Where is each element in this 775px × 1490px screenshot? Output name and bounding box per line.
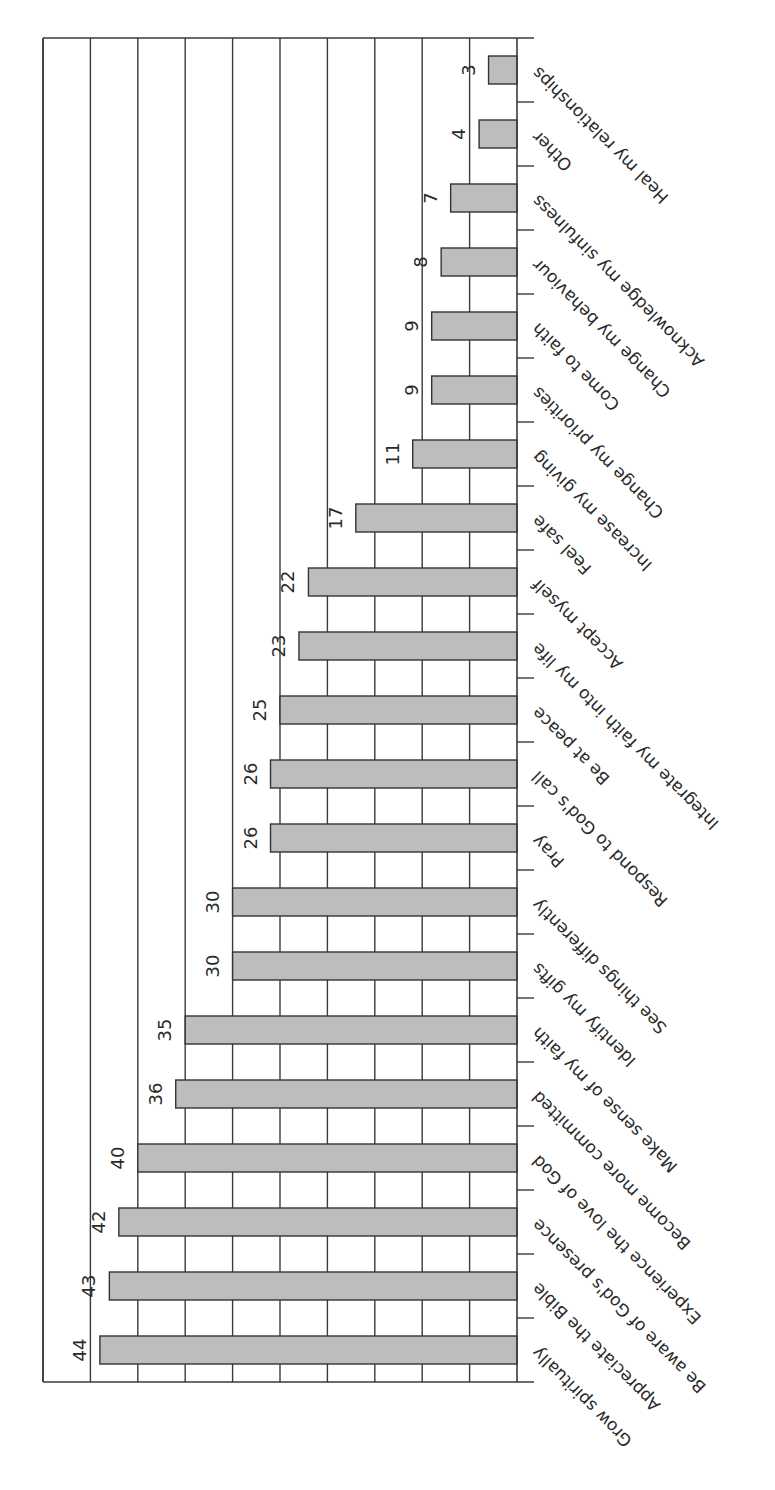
bar bbox=[432, 312, 517, 340]
bar bbox=[432, 376, 517, 404]
value-label: 4 bbox=[448, 128, 469, 139]
bar bbox=[479, 120, 517, 148]
value-label: 43 bbox=[78, 1275, 99, 1298]
value-label: 26 bbox=[240, 827, 261, 850]
value-label: 23 bbox=[268, 635, 289, 658]
value-label: 3 bbox=[458, 64, 479, 75]
value-label: 9 bbox=[401, 320, 422, 331]
bar bbox=[271, 824, 517, 852]
bar bbox=[233, 888, 517, 916]
category-label: Feel safe bbox=[528, 511, 596, 579]
bars bbox=[100, 56, 517, 1364]
category-label: Appreciate the Bible bbox=[528, 1279, 664, 1415]
value-label: 25 bbox=[249, 699, 270, 722]
bar bbox=[185, 1016, 517, 1044]
bar bbox=[356, 504, 517, 532]
value-label: 7 bbox=[420, 192, 441, 203]
bar bbox=[413, 440, 517, 468]
category-label: Other bbox=[528, 127, 576, 175]
value-label: 44 bbox=[69, 1339, 90, 1362]
value-label: 40 bbox=[107, 1147, 128, 1170]
rotated-chart-page: 444342403635303026262523221711998743 Gro… bbox=[0, 0, 775, 1490]
bar bbox=[299, 632, 517, 660]
bar bbox=[119, 1208, 517, 1236]
value-label: 11 bbox=[382, 443, 403, 466]
bar bbox=[280, 696, 517, 724]
category-label: Pray bbox=[528, 831, 569, 872]
value-label: 8 bbox=[410, 256, 431, 267]
value-label: 42 bbox=[88, 1211, 109, 1234]
category-labels: Grow spirituallyAppreciate the BibleBe a… bbox=[527, 63, 723, 1451]
bar bbox=[441, 248, 517, 276]
value-label: 36 bbox=[145, 1083, 166, 1106]
bar bbox=[271, 760, 517, 788]
value-label: 35 bbox=[154, 1019, 175, 1042]
bar bbox=[489, 56, 517, 84]
bar bbox=[308, 568, 517, 596]
bar-chart: 444342403635303026262523221711998743 Gro… bbox=[0, 0, 775, 1490]
value-label: 30 bbox=[202, 955, 223, 978]
bar bbox=[233, 952, 517, 980]
value-label: 17 bbox=[325, 507, 346, 530]
value-label: 9 bbox=[401, 384, 422, 395]
value-label: 26 bbox=[240, 763, 261, 786]
category-label: Increase my giving bbox=[528, 447, 656, 575]
value-label: 30 bbox=[202, 891, 223, 914]
value-label: 22 bbox=[277, 571, 298, 594]
bar bbox=[176, 1080, 517, 1108]
bar bbox=[100, 1336, 517, 1364]
bar bbox=[138, 1144, 517, 1172]
bar bbox=[109, 1272, 517, 1300]
bar bbox=[451, 184, 517, 212]
